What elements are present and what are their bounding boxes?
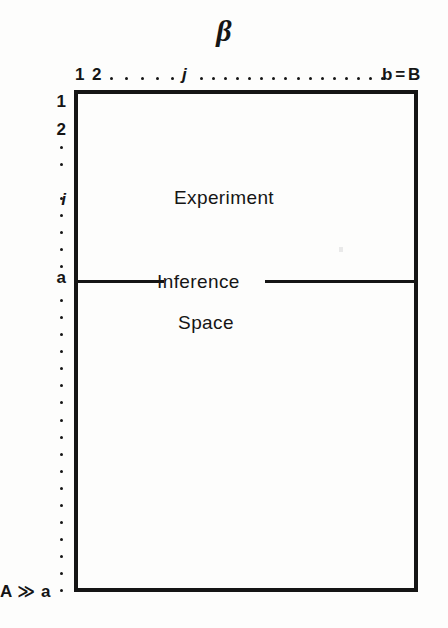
ellipsis-dot	[60, 419, 63, 422]
inference-space-rectangle	[74, 90, 418, 592]
ellipsis-dot	[212, 77, 215, 80]
ellipsis-dot	[60, 299, 63, 302]
ellipsis-dot	[236, 77, 239, 80]
ellipsis-dot	[60, 538, 63, 541]
ellipsis-dot	[60, 214, 63, 217]
column-ellipsis-second	[200, 74, 384, 83]
ellipsis-dot	[60, 384, 63, 387]
inference-space-figure: β 1 2 j b	[0, 0, 448, 628]
ellipsis-dot	[110, 77, 113, 80]
ellipsis-dot	[171, 77, 174, 80]
ellipsis-dot	[333, 77, 336, 80]
row-index-strip: 1 2 i a	[34, 88, 70, 600]
ellipsis-dot	[321, 77, 324, 80]
ellipsis-dot	[224, 77, 227, 80]
ellipsis-dot	[60, 163, 63, 166]
row-label-first: 1	[57, 93, 66, 110]
ellipsis-dot	[60, 487, 63, 490]
ellipsis-dot	[260, 77, 263, 80]
divider-label: Inference	[157, 272, 240, 291]
ellipsis-dot	[60, 572, 63, 575]
column-label-second: 2	[92, 64, 101, 86]
column-label-last: b = B	[382, 64, 420, 86]
ellipsis-dot	[60, 146, 63, 149]
ellipsis-dot	[357, 77, 360, 80]
divider-rule-right	[265, 280, 418, 283]
ellipsis-dot	[60, 333, 63, 336]
ellipsis-dot	[297, 77, 300, 80]
ellipsis-dot	[345, 77, 348, 80]
ellipsis-dot	[248, 77, 251, 80]
ellipsis-dot	[272, 77, 275, 80]
ellipsis-dot	[141, 77, 144, 80]
column-axis-symbol: β	[0, 16, 448, 46]
column-ellipsis-first	[110, 74, 174, 83]
row-label-second: 2	[57, 121, 66, 138]
ellipsis-dot	[60, 231, 63, 234]
ellipsis-dot	[60, 453, 63, 456]
ellipsis-dot	[369, 77, 372, 80]
ellipsis-dot	[60, 248, 63, 251]
row-label-limit: A ≫ a	[0, 583, 51, 600]
ellipsis-dot	[60, 555, 63, 558]
lower-region-label: Space	[0, 313, 430, 332]
column-label-generic: j	[182, 64, 186, 86]
ellipsis-dot	[60, 436, 63, 439]
ellipsis-dot	[60, 265, 63, 268]
row-ellipsis	[59, 146, 63, 592]
ellipsis-dot	[60, 470, 63, 473]
ellipsis-dot	[60, 401, 63, 404]
ellipsis-dot	[60, 504, 63, 507]
ellipsis-dot	[309, 77, 312, 80]
ellipsis-dot	[60, 589, 63, 592]
ellipsis-dot	[60, 350, 63, 353]
ellipsis-dot	[125, 77, 128, 80]
divider-rule-left	[74, 280, 164, 283]
column-index-strip: 1 2 j b = B	[74, 64, 418, 86]
scan-artifact	[339, 247, 343, 252]
ellipsis-dot	[60, 521, 63, 524]
upper-region-label: Experiment	[0, 188, 448, 207]
column-label-first: 1	[75, 64, 84, 86]
ellipsis-dot	[156, 77, 159, 80]
ellipsis-dot	[60, 367, 63, 370]
inference-divider: Inference	[74, 270, 418, 292]
ellipsis-dot	[284, 77, 287, 80]
ellipsis-dot	[200, 77, 203, 80]
